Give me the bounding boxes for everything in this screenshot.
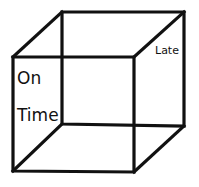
edge-top-left bbox=[13, 12, 62, 57]
label-time: Time bbox=[17, 107, 59, 124]
label-late: Late bbox=[155, 45, 179, 56]
label-on: On bbox=[17, 70, 41, 87]
edge-bottom-right bbox=[134, 126, 184, 172]
necker-cube-diagram: On Time Late bbox=[0, 0, 199, 187]
edge-bottom-left bbox=[13, 124, 62, 171]
cube-wireframe bbox=[0, 0, 199, 187]
